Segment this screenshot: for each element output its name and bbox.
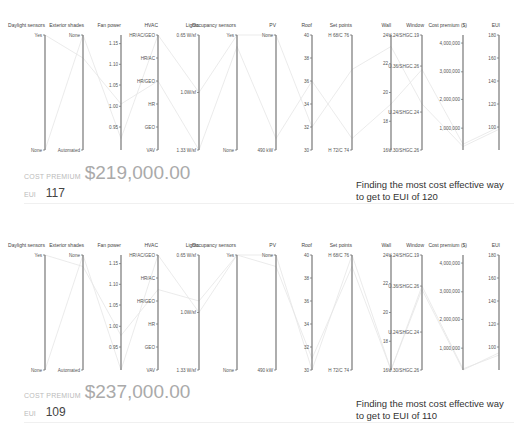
axis-title: Occupancy sensors xyxy=(192,22,236,28)
tick-label: 1,000,000 xyxy=(440,346,461,351)
tick-label: 1.10 xyxy=(109,62,118,67)
axis-hvac[interactable]: HVACHR/AC/GEOHR/ACHR/GEOHRGEOVAV xyxy=(129,22,158,153)
axis-title: Cost premium ($) xyxy=(428,22,467,28)
tick-label: 20 xyxy=(383,90,389,95)
axis-cost-premium[interactable]: Cost premium ($)4,000,0003,000,0002,000,… xyxy=(428,242,467,370)
tick-label: HR/GEO xyxy=(137,79,156,84)
tick-label: HR/AC/GEO xyxy=(129,253,155,258)
tick-label: HR/AC/GEO xyxy=(129,33,155,38)
tick-label: HR/AC xyxy=(141,56,156,61)
tick-label: 0.65 W/sf xyxy=(177,253,197,258)
tick-label: 1.33 W/sf xyxy=(177,148,197,153)
axis-title: Cost premium ($) xyxy=(428,242,467,248)
axis-title: PV xyxy=(269,242,276,248)
axis-title: Window xyxy=(406,22,424,28)
tick-label: 1.10 xyxy=(109,282,118,287)
tick-label: None xyxy=(223,148,234,153)
axis-window[interactable]: WindowU.24/SHGC.19U.36/SHGC.26U.24/SHGC.… xyxy=(388,242,424,373)
data-trace xyxy=(45,35,499,150)
axis-lights[interactable]: Lights0.65 W/sf1.0W/sf1.33 W/sf xyxy=(177,242,200,373)
tick-label: 180 xyxy=(488,253,496,258)
tick-label: 38 xyxy=(304,276,310,281)
axis-wall[interactable]: Wall2422201816 xyxy=(381,242,391,373)
axis-title: Occupancy sensors xyxy=(192,242,236,248)
tick-label: HR/GEO xyxy=(137,299,156,304)
caption-line-1: Finding the most cost effective way xyxy=(356,179,526,191)
axis-title: Roof xyxy=(301,22,312,28)
axis-fan-power[interactable]: Fan power1.151.101.051.000.95 xyxy=(97,242,121,370)
tick-label: 490 kW xyxy=(257,368,273,373)
tick-label: 160 xyxy=(488,56,496,61)
tick-label: Automated xyxy=(58,368,81,373)
tick-label: None xyxy=(262,253,273,258)
cost-premium-value: $237,000.00 xyxy=(85,381,191,403)
axis-set-points[interactable]: Set pointsH 68/C 76H 72/C 74 xyxy=(328,22,352,153)
caption-line-2: to get to EUI of 110 xyxy=(356,410,526,422)
axis-title: Exterior shades xyxy=(49,22,84,28)
eui-label: EUI xyxy=(24,191,36,198)
axis-eui[interactable]: EUI180160140120100 xyxy=(488,22,500,150)
axis-title: EUI xyxy=(492,22,500,28)
tick-label: 2,000,000 xyxy=(440,317,461,322)
axis-set-points[interactable]: Set pointsH 68/C 76H 72/C 74 xyxy=(328,242,352,373)
tick-label: 100 xyxy=(488,345,496,350)
axis-title: Fan power xyxy=(97,242,121,248)
tick-label: None xyxy=(262,33,273,38)
tick-label: 120 xyxy=(488,102,496,107)
tick-label: 1.05 xyxy=(109,83,118,88)
tick-label: 20 xyxy=(383,310,389,315)
tick-label: 4,000,000 xyxy=(440,41,461,46)
tick-label: H 72/C 74 xyxy=(328,368,349,373)
tick-label: 18 xyxy=(383,119,389,124)
tick-label: VAV xyxy=(146,148,155,153)
tick-label: 3,000,000 xyxy=(440,289,461,294)
tick-label: 2,000,000 xyxy=(440,97,461,102)
axis-daylight-sensors[interactable]: Daylight sensorsYesNone xyxy=(8,242,45,373)
axis-roof[interactable]: Roof403836343230 xyxy=(301,22,312,153)
axis-wall[interactable]: Wall2422201816 xyxy=(381,22,391,153)
tick-label: None xyxy=(31,368,42,373)
tick-label: 1.33 W/sf xyxy=(177,368,197,373)
tick-label: 32 xyxy=(304,125,310,130)
tick-label: 4,000,000 xyxy=(440,261,461,266)
tick-label: 32 xyxy=(304,345,310,350)
tick-label: GEO xyxy=(145,345,156,350)
tick-label: 140 xyxy=(488,299,496,304)
tick-label: 1.00 xyxy=(109,324,118,329)
cost-premium-value: $219,000.00 xyxy=(85,162,191,184)
tick-label: U.36/SHGC.26 xyxy=(388,284,419,289)
tick-label: 30 xyxy=(304,368,310,373)
axis-title: Wall xyxy=(381,22,391,28)
axis-exterior-shades[interactable]: Exterior shadesNoneAutomated xyxy=(49,22,84,153)
cost-premium-label: COST PREMIUM xyxy=(24,173,81,180)
axis-title: Fan power xyxy=(97,22,121,28)
caption-line-1: Finding the most cost effective way xyxy=(356,398,526,410)
tick-label: U.30/SHGC.26 xyxy=(388,368,419,373)
tick-label: H 72/C 74 xyxy=(328,148,349,153)
axis-title: HVAC xyxy=(144,22,158,28)
eui-value: 109 xyxy=(46,405,66,419)
axis-daylight-sensors[interactable]: Daylight sensorsYesNone xyxy=(8,22,45,153)
tick-label: 1.15 xyxy=(109,261,118,266)
data-trace xyxy=(45,255,499,370)
tick-label: VAV xyxy=(146,368,155,373)
tick-label: 100 xyxy=(488,125,496,130)
tick-label: 490 kW xyxy=(257,148,273,153)
axis-title: Roof xyxy=(301,242,312,248)
axis-title: HVAC xyxy=(144,242,158,248)
eui-value: 117 xyxy=(46,186,65,200)
axis-lights[interactable]: Lights0.65 W/sf1.0W/sf1.33 W/sf xyxy=(177,22,200,153)
parallel-coordinates-chart[interactable]: Daylight sensorsYesNoneExterior shadesNo… xyxy=(0,217,526,377)
tick-label: 0.95 xyxy=(109,125,118,130)
axis-title: Window xyxy=(406,242,424,248)
axis-fan-power[interactable]: Fan power1.151.101.051.000.95 xyxy=(97,22,121,150)
parallel-coordinates-chart[interactable]: Daylight sensorsYesNoneExterior shadesNo… xyxy=(0,0,526,160)
tick-label: 34 xyxy=(304,102,310,107)
tick-label: 1.05 xyxy=(109,303,118,308)
axis-eui[interactable]: EUI180160140120100 xyxy=(488,242,500,370)
tick-label: 0.65 W/sf xyxy=(177,33,197,38)
axis-title: PV xyxy=(269,22,276,28)
panel-eui-120: Daylight sensorsYesNoneExterior shadesNo… xyxy=(0,0,526,217)
tick-label: 40 xyxy=(304,253,310,258)
axis-title: Set points xyxy=(330,242,353,248)
